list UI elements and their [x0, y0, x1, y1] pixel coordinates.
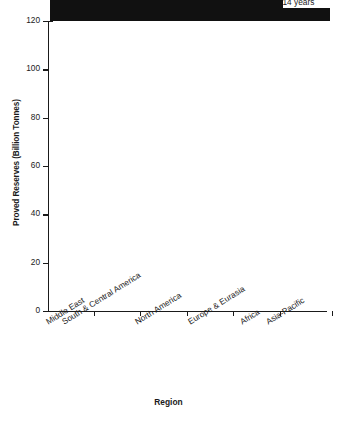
y-axis-tick-label: 60: [31, 160, 40, 170]
bar: 23.5 years: [190, 0, 237, 21]
y-axis-tick-label: 80: [31, 112, 40, 122]
plot-area: 020406080100120 78.1 years136.5 years37.…: [48, 21, 327, 311]
bar-value-label: 14 years: [283, 0, 315, 7]
x-axis-tick: [233, 311, 234, 316]
x-axis-tick: [94, 311, 95, 316]
y-axis-tick: 20: [43, 263, 48, 264]
y-axis-tick: 100: [43, 69, 48, 70]
bar: 40.5 years: [236, 0, 283, 21]
y-axis-tick: 60: [43, 166, 48, 167]
x-axis-tick: [187, 311, 188, 316]
y-axis-top-cap: [48, 21, 53, 22]
bar-chart-figure: Proved Reserves (Billion Tonnes) 0204060…: [0, 0, 337, 425]
y-axis-tick-label: 20: [31, 257, 40, 267]
y-axis-tick: 120: [43, 21, 48, 22]
bar: 78.1 years: [50, 0, 97, 21]
bar: 37.4 years: [143, 0, 190, 21]
y-axis-line: [48, 21, 49, 311]
y-axis-tick-label: 100: [26, 63, 40, 73]
y-axis-tick-label: 120: [26, 15, 40, 25]
y-axis-tick-label: 40: [31, 208, 40, 218]
y-axis-tick: 80: [43, 118, 48, 119]
y-axis-tick: 40: [43, 214, 48, 215]
bar: 14 years: [283, 8, 330, 21]
y-axis-tick-label: 0: [35, 305, 40, 315]
y-axis-tick: 0: [43, 311, 48, 312]
bar: 136.5 years: [97, 0, 144, 21]
x-axis-tick: [332, 311, 333, 316]
y-axis-title: Proved Reserves (Billion Tonnes): [12, 73, 21, 253]
x-axis-title: Region: [0, 397, 337, 407]
